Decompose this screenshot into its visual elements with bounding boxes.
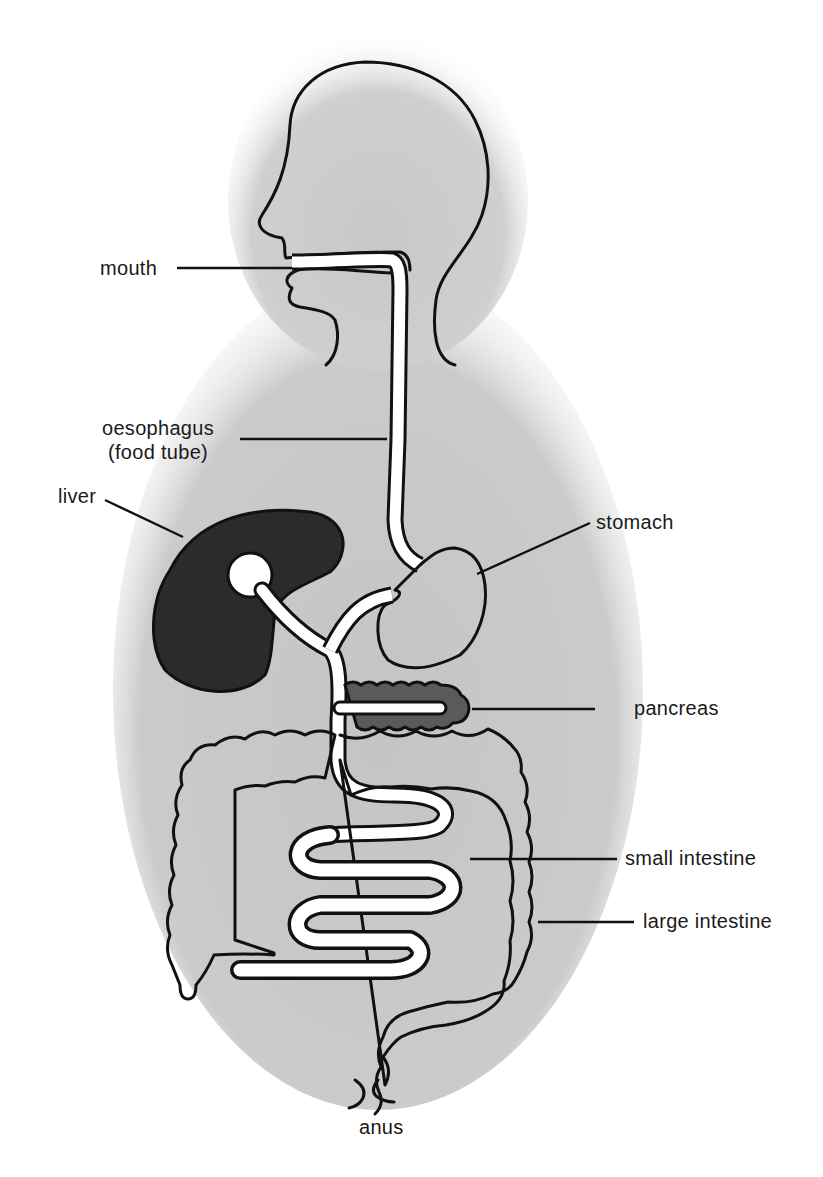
digestive-system-diagram <box>0 0 823 1177</box>
pancreas <box>340 682 469 730</box>
label-stomach: stomach <box>596 510 674 534</box>
label-mouth: mouth <box>100 256 157 280</box>
label-small-intestine: small intestine <box>625 846 756 870</box>
label-pancreas: pancreas <box>634 696 719 720</box>
label-large-intestine: large intestine <box>643 909 772 933</box>
label-oesophagus: oesophagus <box>102 416 214 440</box>
label-anus: anus <box>359 1115 404 1139</box>
label-liver: liver <box>58 484 96 508</box>
label-oesophagus-sub: (food tube) <box>108 440 208 464</box>
